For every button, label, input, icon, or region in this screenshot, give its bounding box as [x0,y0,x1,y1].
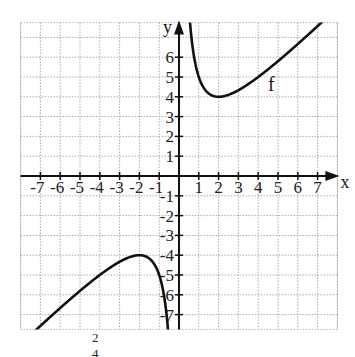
y-axis-arrow-icon [174,21,184,35]
y-tick-label: 6 [166,48,175,67]
x-tick-label: -6 [50,178,64,197]
x-tick-label: -3 [110,178,124,197]
x-tick-label: -4 [90,178,105,197]
y-tick-label: -4 [160,246,175,265]
x-tick-label: -5 [70,178,84,197]
y-tick-label: -3 [160,226,174,245]
x-tick-label: 7 [313,178,322,197]
x-tick-label: 3 [234,178,243,197]
x-tick-label: 2 [214,178,223,197]
x-tick-label: 1 [195,178,204,197]
y-tick-label: -2 [160,207,174,226]
y-tick-label: -1 [160,187,174,206]
function-graph: -7-6-5-4-3-2-11234567-7-6-5-4-3-2-112345… [0,0,355,357]
x-tick-label: -2 [129,178,143,197]
y-tick-label: 2 [166,127,175,146]
y-tick-label: 3 [166,108,175,127]
x-axis-label: x [340,172,349,192]
x-tick-label: -7 [30,178,45,197]
y-tick-label: 4 [166,88,175,107]
x-tick-label: 4 [254,178,263,197]
function-curve-f [29,255,169,337]
y-tick-label: 5 [166,68,175,87]
function-label: f [268,73,275,95]
function-curve-f [190,15,330,97]
x-tick-label: 6 [294,178,303,197]
y-tick-label: 1 [166,147,175,166]
x-tick-label: 5 [274,178,283,197]
y-axis-label: y [163,17,172,37]
